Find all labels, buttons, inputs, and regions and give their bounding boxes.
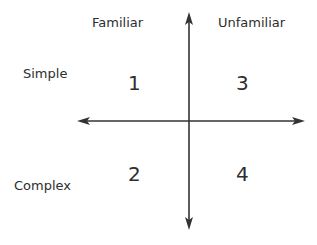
horizontal-axis: [77, 117, 305, 125]
column-header-unfamiliar: Unfamiliar: [218, 15, 285, 30]
quadrant-3-label: 3: [236, 71, 249, 95]
quadrant-4-label: 4: [236, 162, 249, 186]
quadrant-axes: [0, 0, 317, 245]
quadrant-2-label: 2: [128, 162, 141, 186]
row-header-simple: Simple: [23, 66, 67, 81]
quadrant-1-label: 1: [128, 71, 141, 95]
column-header-familiar: Familiar: [92, 15, 143, 30]
row-header-complex: Complex: [14, 178, 71, 193]
